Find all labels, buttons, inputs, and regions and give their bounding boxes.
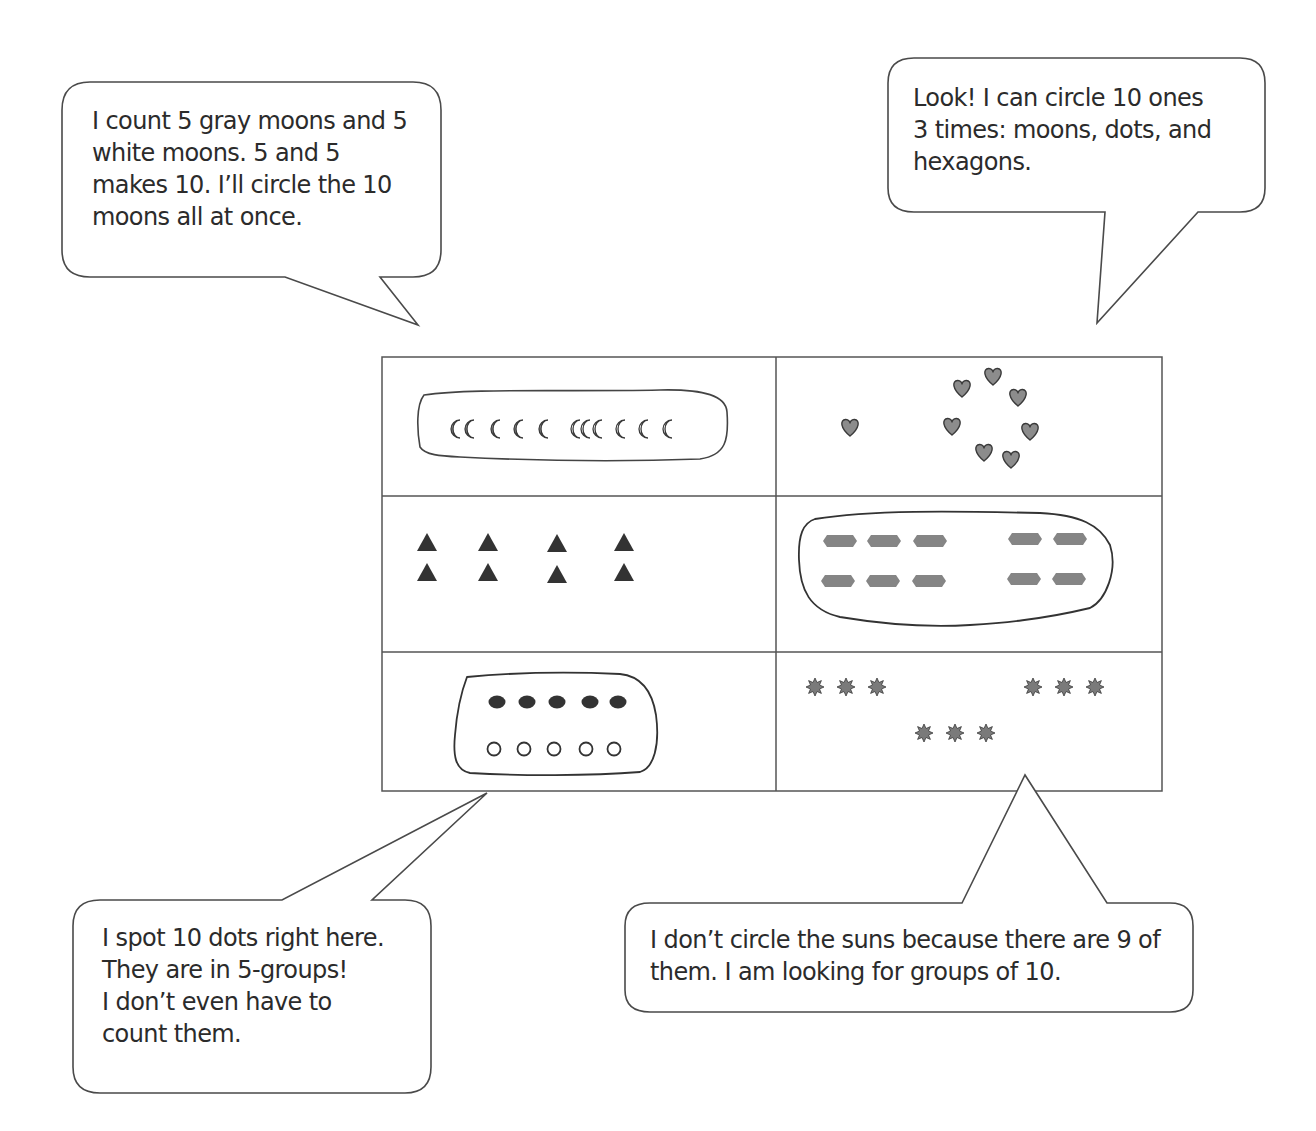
bubble-line: I don’t circle the suns because there ar… bbox=[650, 924, 1160, 956]
bubble-line: makes 10. I’ll circle the 10 bbox=[92, 169, 407, 201]
sun-icon bbox=[1086, 678, 1104, 696]
bubble-line: I don’t even have to bbox=[102, 986, 384, 1018]
hexagon-icon bbox=[867, 535, 901, 547]
sun-icon bbox=[806, 678, 824, 696]
bubble-line: They are in 5-groups! bbox=[102, 954, 384, 986]
speech-bubble-top-right-text: Look! I can circle 10 ones 3 times: moon… bbox=[913, 82, 1211, 178]
sun-icon bbox=[977, 724, 995, 742]
bubble-line: Look! I can circle 10 ones bbox=[913, 82, 1211, 114]
sun-icon bbox=[915, 724, 933, 742]
hexagon-icon bbox=[1053, 533, 1087, 545]
hexagon-icon bbox=[823, 535, 857, 547]
sun-icon bbox=[837, 678, 855, 696]
speech-bubble-bottom-right-text: I don’t circle the suns because there ar… bbox=[650, 924, 1160, 988]
hexagon-icon bbox=[912, 575, 946, 587]
bubble-line: hexagons. bbox=[913, 146, 1211, 178]
speech-bubble-top-left-text: I count 5 gray moons and 5 white moons. … bbox=[92, 105, 407, 233]
bubble-line: moons all at once. bbox=[92, 201, 407, 233]
bubble-line: 3 times: moons, dots, and bbox=[913, 114, 1211, 146]
sun-icon bbox=[1055, 678, 1073, 696]
bubble-line: I count 5 gray moons and 5 bbox=[92, 105, 407, 137]
bubble-line: count them. bbox=[102, 1018, 384, 1050]
hexagon-icon bbox=[1007, 573, 1041, 585]
sun-icon bbox=[868, 678, 886, 696]
hexagon-icon bbox=[866, 575, 900, 587]
bubble-line: white moons. 5 and 5 bbox=[92, 137, 407, 169]
shape-grid bbox=[382, 357, 1162, 791]
hexagon-icon bbox=[821, 575, 855, 587]
sun-icon bbox=[946, 724, 964, 742]
hexagon-icon bbox=[1008, 533, 1042, 545]
bubble-line: I spot 10 dots right here. bbox=[102, 922, 384, 954]
sun-icon bbox=[1024, 678, 1042, 696]
speech-bubble-bottom-left-text: I spot 10 dots right here. They are in 5… bbox=[102, 922, 384, 1050]
hexagon-icon bbox=[913, 535, 947, 547]
bubble-line: them. I am looking for groups of 10. bbox=[650, 956, 1160, 988]
hexagon-icon bbox=[1052, 573, 1086, 585]
